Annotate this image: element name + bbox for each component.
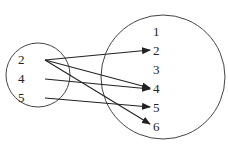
arrow-5-to-5	[45, 98, 150, 107]
domain-element: 4	[18, 71, 25, 86]
codomain-element: 5	[153, 100, 160, 115]
codomain-circle	[101, 15, 225, 139]
domain-circle	[6, 43, 70, 107]
domain-element: 5	[18, 90, 25, 105]
codomain-element: 6	[153, 119, 160, 134]
codomain-element: 4	[153, 81, 160, 96]
mapping-diagram: 2 4 5 1 2 3 4 5 6	[0, 0, 228, 151]
codomain-element: 1	[153, 24, 160, 39]
arrow-2-to-6	[45, 60, 150, 124]
codomain-element: 2	[153, 43, 160, 58]
arrow-2-to-2	[45, 50, 150, 60]
codomain-element: 3	[153, 62, 160, 77]
domain-element: 2	[18, 52, 25, 67]
